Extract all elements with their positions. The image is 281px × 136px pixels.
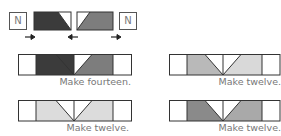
strip-twelve-3	[169, 100, 281, 122]
right-arrow-icon	[25, 35, 35, 40]
caption-make-twelve-3: Make twelve.	[218, 122, 281, 133]
left-arrow-icon	[68, 35, 78, 40]
right-arrow-icon	[111, 35, 121, 40]
strip-twelve-1	[169, 54, 281, 76]
caption-make-fourteen: Make fourteen.	[59, 76, 131, 87]
caption-make-twelve-1: Make twelve.	[218, 76, 281, 87]
n-square-right: N	[119, 12, 137, 30]
strip-fourteen	[18, 54, 132, 76]
top-pieces	[0, 0, 281, 45]
strip-twelve-2	[18, 100, 132, 122]
caption-make-twelve-2: Make twelve.	[66, 122, 129, 133]
